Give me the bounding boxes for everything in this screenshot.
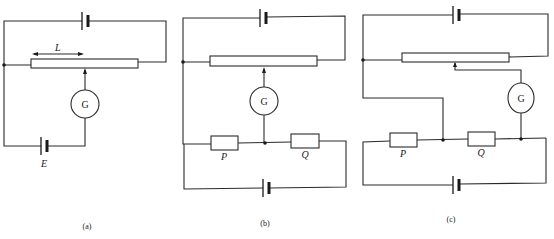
panel-c: G P Q (c)	[361, 6, 548, 224]
resistor-p-label: P	[220, 151, 227, 162]
resistor-p	[390, 133, 417, 147]
resistor-q-label: Q	[301, 149, 309, 160]
slider-contact-icon	[262, 67, 266, 87]
driver-loop-b	[183, 9, 345, 62]
emf-label: E	[40, 158, 47, 169]
panel-a: L G E (a)	[2, 12, 166, 231]
galvanometer-label: G	[517, 93, 524, 104]
caption-b: (b)	[260, 219, 270, 228]
junction-dot	[441, 138, 445, 142]
driver-cell-icon	[82, 12, 88, 30]
resistor-p	[211, 136, 238, 150]
length-label: L	[54, 42, 61, 53]
driver-loop-a	[4, 12, 166, 65]
galvanometer-label: G	[260, 96, 267, 107]
junction-dot	[263, 141, 267, 145]
resistor-q	[468, 132, 495, 146]
slide-wire-a	[31, 59, 138, 68]
galvanometer-label: G	[81, 99, 88, 110]
slide-wire-b	[210, 56, 317, 66]
bridge-cell-icon	[453, 176, 459, 194]
resistor-q-label: Q	[477, 147, 485, 158]
bridge-cell-icon	[263, 179, 269, 197]
caption-c: (c)	[447, 215, 456, 224]
driver-cell-icon	[453, 6, 459, 24]
slide-wire-c	[402, 53, 509, 62]
test-cell-icon	[41, 137, 47, 155]
driver-cell-icon	[260, 9, 266, 27]
resistor-q	[291, 134, 319, 148]
slider-contact-icon	[453, 62, 521, 83]
resistor-p-label: P	[399, 148, 406, 159]
driver-loop-c	[363, 6, 548, 60]
caption-a: (a)	[83, 222, 92, 231]
slider-contact-icon	[83, 68, 87, 90]
potentiometer-circuit-figure: L G E (a)	[0, 0, 554, 239]
junction-dot	[519, 137, 523, 141]
panel-b: G P Q (b)	[181, 9, 346, 228]
